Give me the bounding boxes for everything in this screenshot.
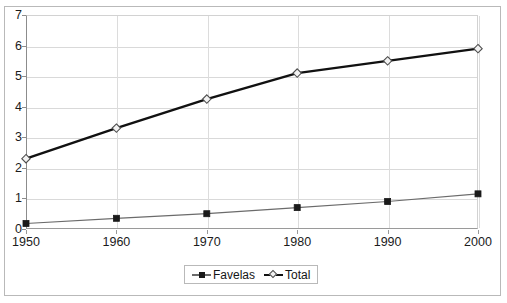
chart-series-svg	[0, 0, 507, 303]
data-point-favelas-1970	[204, 211, 210, 217]
data-point-total-1990	[383, 57, 391, 65]
series-line-favelas	[26, 194, 478, 224]
series-line-total	[26, 49, 478, 159]
data-point-total-1950	[22, 154, 30, 162]
legend-marker-diamond-icon	[264, 270, 283, 280]
legend-entry-favelas: Favelas	[192, 269, 255, 281]
data-point-favelas-1990	[385, 198, 391, 204]
data-point-favelas-1980	[294, 205, 300, 211]
legend-entry-total: Total	[264, 269, 310, 281]
data-point-total-1970	[203, 95, 211, 103]
legend-label-favelas: Favelas	[213, 269, 255, 281]
data-point-total-1960	[112, 124, 120, 132]
data-point-total-2000	[474, 44, 482, 52]
legend-marker-square-icon	[192, 270, 211, 280]
data-point-favelas-1960	[113, 215, 119, 221]
data-point-favelas-1950	[23, 220, 29, 226]
data-point-total-1980	[293, 69, 301, 77]
chart-figure: 01234567 195019601970198019902000 Favela…	[0, 0, 507, 303]
chart-legend: Favelas Total	[184, 265, 318, 284]
data-point-favelas-2000	[475, 191, 481, 197]
legend-label-total: Total	[285, 269, 310, 281]
